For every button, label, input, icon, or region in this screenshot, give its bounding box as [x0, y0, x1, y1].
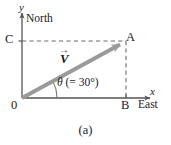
north-direction-label: North: [26, 13, 53, 25]
point-a-label: A: [126, 31, 135, 44]
angle-value-text: (= 30°): [66, 76, 99, 88]
origin-label: 0: [11, 99, 17, 112]
vector-arrow-accent-icon: →: [59, 45, 69, 55]
point-b-label: B: [121, 99, 129, 112]
point-c-label: C: [5, 33, 13, 46]
y-axis-label: y: [19, 2, 24, 13]
vector-diagram-figure: y x North East C A B 0 θ (= 30°) →V (a): [0, 0, 171, 145]
angle-label: θ (= 30°): [57, 77, 99, 89]
vector-v-arrow: [22, 45, 120, 99]
x-axis-label: x: [150, 86, 155, 97]
figure-caption: (a): [0, 124, 171, 137]
vector-v-label: →V: [60, 50, 69, 65]
east-direction-label: East: [138, 99, 158, 111]
